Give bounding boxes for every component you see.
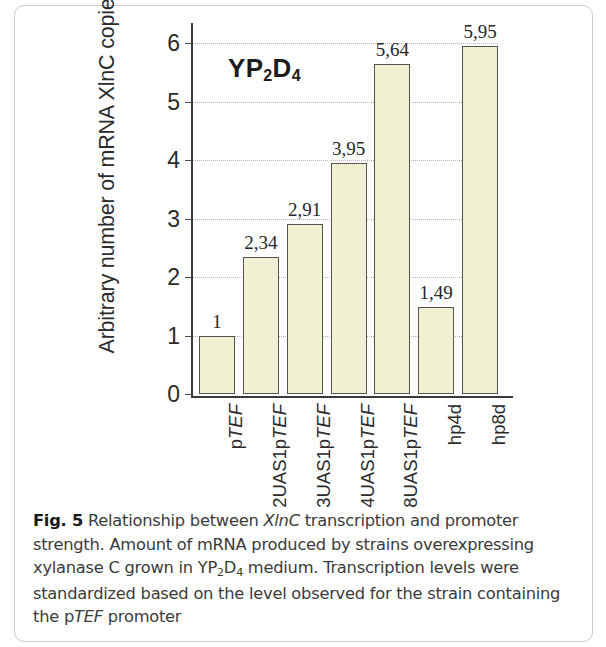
- y-tick-mark: [185, 394, 192, 395]
- bar[interactable]: 2,34: [243, 257, 279, 394]
- gridline: [193, 43, 498, 45]
- caption-sub1: 2: [217, 566, 224, 579]
- gridline: [193, 102, 498, 104]
- x-tick-label: 4UAS1pTEF: [357, 404, 379, 508]
- y-tick-label: 0: [167, 383, 180, 406]
- y-tick-label: 2: [167, 266, 180, 289]
- x-tick-label: hp4d: [444, 404, 466, 445]
- bar-value-label: 1,49: [420, 282, 453, 304]
- bar[interactable]: 2,91: [287, 224, 323, 394]
- y-tick-mark: [185, 102, 192, 103]
- bar[interactable]: 1,49: [418, 307, 454, 394]
- y-tick-label: 4: [167, 149, 180, 172]
- bar[interactable]: 1: [199, 336, 235, 394]
- caption-seg5: promoter: [103, 607, 181, 626]
- y-tick-label: 1: [167, 324, 180, 347]
- x-tick-label: pTEF: [225, 404, 247, 449]
- x-tick-label: 2UAS1pTEF: [269, 404, 291, 508]
- caption-figure-label: Fig. 5: [33, 511, 83, 530]
- bar[interactable]: 3,95: [331, 163, 367, 394]
- x-tick-label: hp8d: [488, 404, 510, 445]
- caption-promoter-name: TEF: [74, 607, 103, 626]
- chart-area: Arbitrary number of mRNA XlnC copies YP2…: [15, 6, 594, 501]
- bar-value-label: 5,95: [463, 21, 496, 43]
- y-tick-label: 3: [167, 207, 180, 230]
- x-tick-label: 3UAS1pTEF: [313, 404, 335, 508]
- bar[interactable]: 5,95: [462, 46, 498, 394]
- caption-seg1: Relationship between: [83, 511, 263, 530]
- bar-value-label: 2,34: [244, 232, 277, 254]
- y-tick-mark: [185, 160, 192, 161]
- y-tick-mark: [185, 43, 192, 44]
- y-tick-mark: [185, 336, 192, 337]
- bar-value-label: 1: [212, 311, 222, 333]
- bar-value-label: 5,64: [376, 39, 409, 61]
- figure-caption: Fig. 5 Relationship between XlnC transcr…: [33, 509, 583, 629]
- x-axis-line: [191, 396, 513, 398]
- bar-value-label: 3,95: [332, 138, 365, 160]
- gridline: [193, 160, 498, 162]
- y-tick-label: 5: [167, 90, 180, 113]
- y-axis-title: Arbitrary number of mRNA XlnC copies: [95, 54, 120, 354]
- figure-frame: Arbitrary number of mRNA XlnC copies YP2…: [14, 5, 593, 642]
- caption-sub2: 4: [236, 566, 243, 579]
- y-tick-label: 6: [167, 32, 180, 55]
- plot-area: 0123456 12,342,913,955,641,495,95 pTEF2U…: [191, 23, 498, 396]
- x-tick-label: 8UAS1pTEF: [400, 404, 422, 508]
- y-tick-mark: [185, 219, 192, 220]
- caption-gene-name: XlnC: [263, 511, 299, 530]
- bar[interactable]: 5,64: [374, 64, 410, 394]
- y-tick-mark: [185, 277, 192, 278]
- caption-seg3: D: [224, 558, 236, 577]
- bar-value-label: 2,91: [288, 199, 321, 221]
- y-axis-line: [191, 23, 193, 397]
